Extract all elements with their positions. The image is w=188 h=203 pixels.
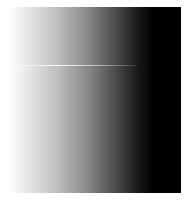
gradient-panel	[10, 7, 181, 193]
highlight-line	[15, 65, 137, 66]
